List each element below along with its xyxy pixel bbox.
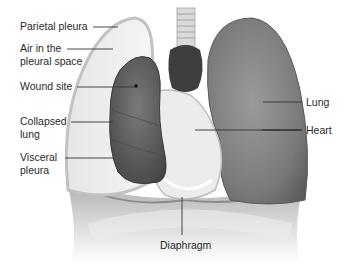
label-diaphragm: Diaphragm	[160, 239, 211, 252]
pneumothorax-diagram: Parietal pleura Air in the pleural space…	[0, 0, 347, 272]
label-parietal-pleura: Parietal pleura	[20, 20, 88, 33]
trachea	[168, 8, 202, 92]
right-lung	[208, 18, 308, 204]
label-wound-site: Wound site	[20, 80, 72, 93]
collapsed-lung	[110, 57, 166, 184]
label-visceral-pleura: Visceral pleura	[20, 151, 57, 177]
label-air-in-pleural-space: Air in the pleural space	[20, 42, 82, 68]
label-collapsed-lung: Collapsed lung	[20, 115, 67, 141]
label-heart: Heart	[306, 124, 332, 137]
label-lung: Lung	[306, 96, 329, 109]
